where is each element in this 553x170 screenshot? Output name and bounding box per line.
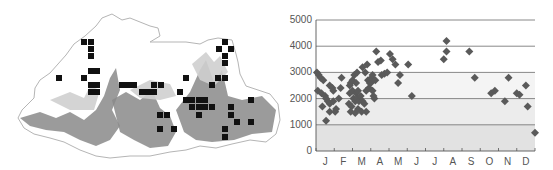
sample-marker [157, 126, 163, 132]
sample-marker [222, 126, 228, 132]
sample-marker [202, 104, 208, 110]
sample-marker [209, 82, 215, 88]
sample-marker [196, 112, 202, 118]
sample-marker [139, 89, 145, 95]
sample-marker [157, 112, 163, 118]
sample-marker [196, 97, 202, 103]
sample-marker [189, 97, 195, 103]
band [316, 46, 535, 72]
sample-marker [151, 82, 157, 88]
sample-marker [216, 46, 222, 52]
sample-marker [177, 89, 183, 95]
sample-marker [222, 53, 228, 59]
bhutan-map [0, 0, 290, 170]
sample-marker [158, 82, 164, 88]
sample-marker [151, 89, 157, 95]
sample-marker [196, 104, 202, 110]
sample-marker [248, 97, 254, 103]
sample-marker [56, 75, 62, 81]
sample-marker [222, 39, 228, 45]
sample-marker [81, 75, 87, 81]
sample-marker [222, 60, 228, 66]
band [316, 20, 535, 46]
sample-marker [88, 89, 94, 95]
sample-marker [88, 68, 94, 74]
band [316, 125, 535, 151]
sample-marker [145, 89, 151, 95]
sample-marker [202, 97, 208, 103]
sample-marker [248, 119, 254, 125]
sample-marker [228, 46, 234, 52]
sample-marker [209, 104, 215, 110]
sample-marker [234, 119, 240, 125]
sample-marker [183, 97, 189, 103]
sample-marker [88, 39, 94, 45]
sample-marker [222, 134, 228, 140]
sample-marker [222, 75, 228, 81]
sample-marker [94, 68, 100, 74]
sample-marker [228, 112, 234, 118]
sample-marker [88, 53, 94, 59]
sample-marker [171, 126, 177, 132]
sample-marker [164, 112, 170, 118]
sample-marker [131, 82, 137, 88]
sample-marker [94, 89, 100, 95]
sample-marker [125, 82, 131, 88]
sample-marker [119, 82, 125, 88]
sample-marker [183, 75, 189, 81]
sample-marker [228, 104, 234, 110]
scatter-plot [290, 0, 553, 170]
map-graphic [0, 0, 290, 170]
elevation-by-month-chart: 010002000300040005000 JFMAMJJASOND [290, 0, 553, 170]
sample-marker [189, 104, 195, 110]
sample-marker [81, 39, 87, 45]
sample-marker [215, 75, 221, 81]
sample-marker [88, 46, 94, 52]
sample-marker [94, 82, 100, 88]
sample-marker [88, 82, 94, 88]
